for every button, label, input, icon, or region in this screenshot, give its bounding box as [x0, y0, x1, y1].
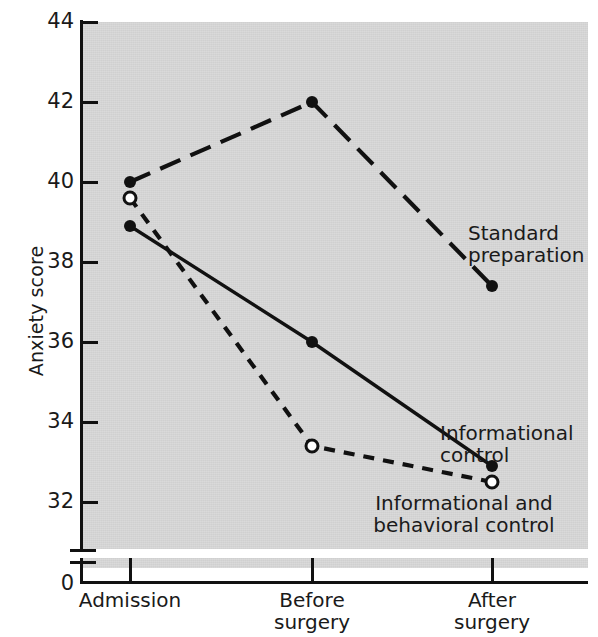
series-line-0 [130, 102, 492, 286]
anxiety-score-line-chart: 32343638404244 0 Anxiety score Admission… [0, 0, 598, 637]
annotation-line: behavioral control [330, 514, 598, 536]
annotation-line: Informational [440, 422, 598, 444]
data-point-s2-1 [306, 440, 318, 452]
data-point-s0-1 [306, 96, 318, 108]
annotation-line: Standard [468, 222, 598, 244]
annotation-1: Informationalcontrol [440, 422, 598, 467]
data-point-s1-0 [124, 220, 136, 232]
annotation-line: control [440, 444, 598, 466]
data-point-s2-0 [124, 192, 136, 204]
series-layer [0, 0, 598, 637]
annotation-line: preparation [468, 244, 598, 266]
annotation-line: Informational and [330, 492, 598, 514]
data-point-s0-0 [124, 176, 136, 188]
data-point-s2-2 [486, 476, 498, 488]
annotation-2: Informational andbehavioral control [330, 492, 598, 537]
data-point-s0-2 [486, 280, 498, 292]
annotation-0: Standardpreparation [468, 222, 598, 267]
data-point-s1-1 [306, 336, 318, 348]
